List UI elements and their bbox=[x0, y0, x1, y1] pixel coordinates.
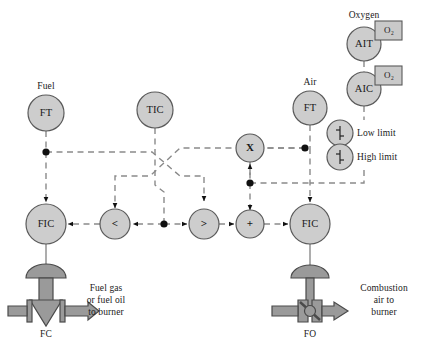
operator-multiplier: X bbox=[246, 142, 254, 154]
dot-mult-out bbox=[246, 179, 253, 186]
instrument-tag-ait: AIT bbox=[355, 38, 373, 49]
valve-action-fc: FC bbox=[40, 329, 52, 339]
junction-dots bbox=[42, 144, 308, 227]
process-control-diagram: FT Fuel TIC FT Air AIT Oxygen AIC FIC FI… bbox=[0, 0, 426, 345]
instrument-tag-fic-fuel: FIC bbox=[38, 218, 55, 229]
air-valve-assembly bbox=[272, 265, 348, 322]
label-high-limit: High limit bbox=[357, 152, 397, 162]
operator-summer: + bbox=[247, 218, 253, 230]
instrument-tag-aic: AIC bbox=[355, 83, 373, 94]
o2-tag-label-aic: O₂ bbox=[384, 71, 394, 81]
fuel-actuator-dome bbox=[26, 264, 66, 278]
label-fuel: Fuel bbox=[37, 81, 54, 91]
dot-air-ft bbox=[301, 144, 308, 151]
label-low-limit: Low limit bbox=[357, 128, 396, 138]
air-valve-disc bbox=[305, 306, 316, 317]
air-actuator-dome bbox=[291, 265, 329, 278]
limit-bubbles bbox=[327, 120, 353, 170]
dot-mid-split bbox=[160, 220, 167, 227]
fuel-flange-right bbox=[60, 300, 65, 322]
fuel-pipe-inlet bbox=[8, 306, 27, 316]
instrument-tag-ft-air: FT bbox=[304, 102, 316, 113]
air-pipe-outlet-arrow bbox=[322, 302, 348, 320]
instrument-tag-tic: TIC bbox=[146, 104, 163, 115]
fuel-valve-assembly bbox=[8, 264, 99, 326]
air-pipe-inlet bbox=[272, 306, 298, 316]
operator-low-select: < bbox=[112, 218, 118, 230]
label-oxygen: Oxygen bbox=[349, 10, 380, 20]
o2-tag-label-ait: O₂ bbox=[384, 26, 394, 36]
fuel-valve-body-closed bbox=[30, 300, 62, 326]
operator-high-select: > bbox=[201, 218, 207, 230]
stream-label-air: Combustion air to burner bbox=[360, 283, 407, 319]
fuel-flange-left bbox=[27, 300, 32, 322]
dot-fuel-ft bbox=[42, 148, 49, 155]
stream-label-fuel: Fuel gas or fuel oil to burner bbox=[87, 283, 126, 319]
instrument-tag-ft-fuel: FT bbox=[40, 107, 52, 118]
line-air-cross-to-low bbox=[115, 148, 305, 208]
line-tic-down bbox=[155, 128, 164, 224]
valve-action-fo: FO bbox=[304, 329, 316, 339]
instrument-tag-fic-air: FIC bbox=[302, 218, 319, 229]
label-air: Air bbox=[304, 77, 317, 87]
line-aic-to-mult bbox=[310, 170, 364, 183]
